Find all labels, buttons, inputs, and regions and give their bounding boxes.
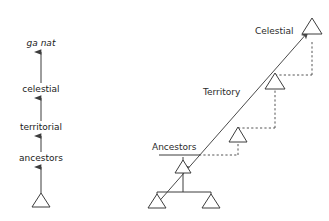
node-label-ancestors: Ancestors <box>152 142 197 152</box>
lineage-leaf-right-triangle-icon <box>202 194 220 208</box>
diagram-canvas: ga nat celestial territorial ancestors <box>0 0 329 221</box>
axis-label-ganat: ga nat <box>27 38 56 48</box>
node-label-celestial: Celestial <box>255 26 294 36</box>
territory-triangle-icon <box>265 73 285 89</box>
lineage-head-triangle-icon <box>175 160 191 173</box>
left-axis-group: ga nat celestial territorial ancestors <box>19 38 63 207</box>
ancestors-upper-triangle-icon <box>229 127 247 142</box>
diagram-svg: ga nat celestial territorial ancestors <box>0 0 329 221</box>
axis-label-celestial: celestial <box>22 84 59 94</box>
diagonal-trend-arrow <box>155 32 308 206</box>
node-label-territory: Territory <box>202 87 241 97</box>
right-staircase-group: Celestial Territory Ancestors <box>148 18 322 208</box>
axis-label-ancestors: ancestors <box>19 153 63 163</box>
axis-base-triangle-icon <box>32 193 50 207</box>
axis-label-territorial: territorial <box>20 122 62 132</box>
root-celestial-triangle-icon <box>302 18 322 34</box>
